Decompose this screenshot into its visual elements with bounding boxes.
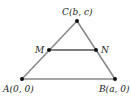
point-a (20, 77, 24, 81)
label-a: A(0, 0) (2, 84, 34, 94)
label-m: M (34, 45, 45, 55)
point-m (47, 48, 51, 52)
label-b: B(a, 0) (98, 84, 130, 94)
point-c (75, 19, 79, 23)
point-b (113, 77, 117, 81)
triangle-diagram: C(b, c) M N A(0, 0) B(a, 0) (0, 0, 131, 102)
label-n: N (100, 45, 110, 55)
point-n (94, 48, 98, 52)
label-c: C(b, c) (62, 7, 93, 17)
